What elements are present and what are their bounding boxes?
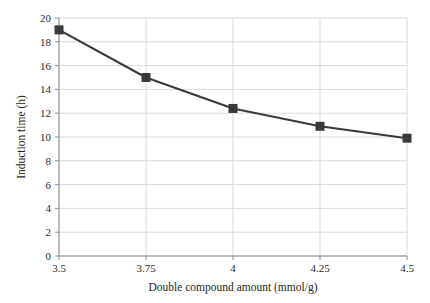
y-axis-tick-label: 8 [46, 155, 52, 167]
chart-figure: 02468101214161820 3.53.7544.254.5 Double… [0, 0, 430, 303]
line-chart: 02468101214161820 3.53.7544.254.5 Double… [0, 0, 430, 303]
y-axis-tick-label: 12 [40, 107, 51, 119]
x-axis-tick-label: 4.25 [310, 262, 330, 274]
x-axis-tick-label: 4 [230, 262, 236, 274]
y-axis-tick-label: 10 [40, 131, 52, 143]
y-axis-tick-label: 0 [46, 250, 52, 262]
y-axis-tick-label: 18 [40, 36, 52, 48]
chart-background [0, 0, 430, 303]
data-point-marker [403, 134, 412, 143]
x-axis-tick-label: 4.5 [400, 262, 414, 274]
x-axis-tick-label: 3.75 [136, 262, 156, 274]
y-axis-tick-label: 20 [40, 12, 52, 24]
data-point-marker [229, 104, 238, 113]
y-axis-tick-label: 2 [46, 226, 52, 238]
y-axis-tick-label: 6 [46, 179, 52, 191]
data-point-marker [55, 25, 64, 34]
data-point-marker [316, 122, 325, 131]
data-point-marker [142, 73, 151, 82]
x-axis-title: Double compound amount (mmol/g) [149, 281, 318, 294]
y-axis-tick-label: 14 [40, 83, 52, 95]
y-axis-tick-label: 4 [46, 202, 52, 214]
x-axis-tick-label: 3.5 [52, 262, 66, 274]
y-axis-tick-label: 16 [40, 60, 52, 72]
y-axis-title: Induction time (h) [15, 95, 28, 179]
